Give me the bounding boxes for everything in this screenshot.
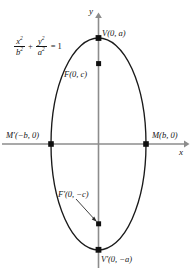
focus-bottom-leader-line [76, 199, 96, 221]
equation-numerator-y: y2 [37, 36, 46, 46]
equation-numerator-x: x2 [15, 36, 24, 46]
label-vertex-left: Mʹ(−b, 0) [6, 131, 39, 140]
equation-fraction-y: y2 a2 [36, 36, 47, 57]
point-focus-top [96, 61, 101, 66]
equation-plus-operator: + [28, 42, 33, 51]
x-axis-label: x [179, 148, 183, 157]
x-axis [2, 141, 190, 148]
label-focus-bottom: Fʹ(0, −c) [58, 190, 89, 199]
point-vertex-bottom [96, 247, 102, 253]
equation-denominator-a: a2 [37, 47, 46, 57]
y-axis-label: y [89, 7, 93, 16]
point-vertex-top [96, 35, 102, 41]
equation-equals-sign: = [51, 42, 56, 51]
equation-fraction-x: x2 b2 [14, 36, 25, 57]
label-vertex-bottom: Vʹ(0, −a) [101, 255, 132, 264]
y-axis-arrowhead [95, 13, 102, 19]
label-vertex-right: M(b, 0) [152, 131, 178, 140]
label-vertex-top: V(0, a) [102, 29, 126, 38]
equation-denominator-b: b2 [15, 47, 24, 57]
point-vertex-left [48, 141, 54, 147]
equation-right-side: 1 [58, 42, 62, 51]
x-axis-arrowhead [184, 141, 190, 148]
y-axis [95, 13, 102, 269]
label-focus-top: F(0, c) [64, 70, 87, 79]
ellipse-figure: y x x2 b2 + y2 a2 = 1 V(0, a) F(0, c) Mʹ… [0, 0, 194, 274]
point-vertex-right [143, 141, 149, 147]
point-focus-bottom [96, 221, 101, 226]
ellipse-equation: x2 b2 + y2 a2 = 1 [13, 36, 62, 57]
